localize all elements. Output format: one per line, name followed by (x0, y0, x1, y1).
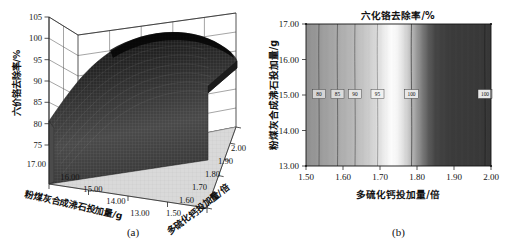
svg-text:100: 100 (481, 91, 489, 97)
panel-a-ztick-5: 80 (33, 119, 42, 129)
contour-label-group-2: 90 (349, 90, 362, 99)
panel-a-ytick-2: 1.70 (192, 182, 207, 192)
panel-b-ytick-4: 13.00 (279, 161, 300, 171)
panel-b-xaxis: 1.50 1.60 1.70 1.80 1.90 2.00 多硫化钙投加量/倍 (298, 166, 499, 200)
panel-b-ytick-1: 16.00 (279, 55, 300, 65)
svg-text:85: 85 (335, 91, 341, 97)
svg-text:90: 90 (352, 91, 358, 97)
panel-b-plot-area: 80 85 90 95 (305, 23, 492, 167)
panel-b-title: 六化铬去除率/% (361, 10, 435, 21)
panel-a-zaxis-title: 六价铬去除率/% (11, 50, 22, 117)
panel-b-yaxis-title: 粉煤灰合成沸石投加量/g (268, 40, 279, 151)
contour-label-group-4: 100 (405, 90, 419, 99)
panel-a-ztick-2: 95 (33, 55, 42, 65)
panel-b-caption: (b) (266, 226, 531, 238)
panel-a-xtick-4: 13.00 (130, 208, 149, 218)
panel-b-xtick-4: 1.90 (446, 172, 462, 182)
panel-b-ytick-2: 15.00 (279, 90, 300, 100)
panel-b-contour-plot: 80 85 90 95 (266, 0, 531, 241)
panel-a-ztick-1: 100 (29, 33, 42, 43)
panel-a-ztick-6: 75 (33, 140, 42, 150)
panel-a-xtick-1: 16.00 (60, 172, 79, 182)
panel-a-surface-plot: 105 100 95 90 85 80 75 六价铬去除率/% (0, 0, 266, 241)
panel-a-xtick-0: 17.00 (27, 159, 46, 169)
figure-container: 105 100 95 90 85 80 75 六价铬去除率/% (0, 0, 531, 241)
panel-b-svg: 80 85 90 95 (266, 0, 531, 241)
panel-a-xtick-2: 15.00 (83, 184, 102, 194)
panel-b-xtick-2: 1.70 (372, 172, 388, 182)
panel-b-ytick-3: 14.00 (279, 126, 300, 136)
panel-b-xtick-3: 1.80 (409, 172, 425, 182)
panel-b-xtick-5: 2.00 (483, 172, 499, 182)
panel-b-xaxis-title: 多硫化钙投加量/倍 (356, 189, 440, 200)
contour-label-group-3: 95 (371, 90, 384, 99)
panel-a-ztick-0: 105 (29, 12, 42, 22)
panel-a-xtick-3: 14.00 (106, 196, 125, 206)
panel-b-ytick-0: 17.00 (279, 19, 300, 29)
svg-text:95: 95 (375, 91, 381, 97)
svg-text:80: 80 (316, 91, 322, 97)
panel-a-svg: 105 100 95 90 85 80 75 六价铬去除率/% (0, 0, 266, 241)
contour-label-group-0: 80 (313, 90, 326, 99)
panel-a-caption: (a) (0, 226, 266, 238)
panel-a-ztick-4: 85 (33, 97, 42, 107)
panel-b-yaxis: 17.00 16.00 15.00 14.00 13.00 粉煤灰合成沸石投加量… (268, 19, 306, 171)
panel-b-xtick-1: 1.60 (335, 172, 351, 182)
panel-b-xtick-0: 1.50 (298, 172, 314, 182)
panel-a-ytick-4: 1.90 (218, 156, 233, 166)
panel-a-ztick-3: 90 (33, 76, 42, 86)
panel-a-ytick-1: 1.60 (179, 195, 194, 205)
contour-label-group-5: 100 (478, 90, 492, 99)
contour-label-group-1: 85 (331, 90, 344, 99)
panel-a-ytick-3: 1.80 (205, 169, 220, 179)
svg-text:100: 100 (407, 91, 415, 97)
panel-a-ytick-5: 2.00 (231, 143, 246, 153)
